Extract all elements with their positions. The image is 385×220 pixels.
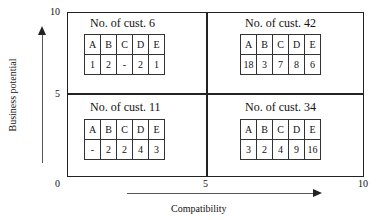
quadrant-tr-table: A B C D E 18 3 7 8 6 (240, 34, 321, 75)
table-header-row: A B C D E (85, 35, 165, 55)
x-axis-line (127, 193, 317, 194)
value-cell: 2 (257, 140, 273, 160)
value-cell: 18 (241, 55, 257, 75)
y-axis-label: Business potential (7, 58, 18, 131)
y-axis-line (42, 33, 43, 163)
table-value-row: 18 3 7 8 6 (241, 55, 321, 75)
y-tick-5: 5 (55, 89, 60, 99)
value-cell: 2 (101, 55, 117, 75)
x-tick-5: 5 (203, 179, 208, 189)
header-cell: C (273, 35, 289, 55)
quadrant-br-table: A B C D E 3 2 4 9 16 (240, 119, 321, 160)
horizontal-divider (67, 93, 364, 95)
value-cell: 6 (305, 55, 321, 75)
table-value-row: - 2 2 4 3 (85, 140, 165, 160)
value-cell: 1 (149, 55, 165, 75)
quadrant-tl-title: No. of cust. 6 (90, 16, 155, 31)
table-value-row: 3 2 4 9 16 (241, 140, 321, 160)
x-tick-10: 10 (358, 179, 368, 189)
header-cell: A (241, 35, 257, 55)
header-cell: B (101, 120, 117, 140)
header-cell: D (133, 35, 149, 55)
quadrant-bl-title: No. of cust. 11 (90, 100, 161, 115)
x-tick-0: 0 (55, 179, 60, 189)
table-value-row: 1 2 - 2 1 (85, 55, 165, 75)
quadrant-br-title: No. of cust. 34 (245, 100, 316, 115)
header-cell: A (241, 120, 257, 140)
quadrant-tr-title: No. of cust. 42 (245, 16, 316, 31)
header-cell: E (149, 35, 165, 55)
header-cell: A (85, 120, 101, 140)
value-cell: 7 (273, 55, 289, 75)
value-cell: 9 (289, 140, 305, 160)
header-cell: A (85, 35, 101, 55)
value-cell: - (117, 55, 133, 75)
header-cell: B (257, 120, 273, 140)
header-cell: B (257, 35, 273, 55)
value-cell: 8 (289, 55, 305, 75)
value-cell: 1 (85, 55, 101, 75)
x-axis-label: Compatibility (171, 203, 227, 214)
quadrant-bl-table: A B C D E - 2 2 4 3 (84, 119, 165, 160)
header-cell: E (305, 35, 321, 55)
y-axis-arrow-icon (38, 26, 46, 35)
header-cell: B (101, 35, 117, 55)
header-cell: C (117, 120, 133, 140)
table-header-row: A B C D E (241, 120, 321, 140)
value-cell: 4 (133, 140, 149, 160)
value-cell: 16 (305, 140, 321, 160)
value-cell: 3 (257, 55, 273, 75)
header-cell: E (305, 120, 321, 140)
value-cell: 3 (241, 140, 257, 160)
value-cell: 2 (117, 140, 133, 160)
header-cell: E (149, 120, 165, 140)
quadrant-tl-table: A B C D E 1 2 - 2 1 (84, 34, 165, 75)
x-axis-arrow-icon (313, 189, 322, 197)
header-cell: D (133, 120, 149, 140)
value-cell: - (85, 140, 101, 160)
header-cell: C (273, 120, 289, 140)
header-cell: C (117, 35, 133, 55)
vertical-divider (206, 12, 208, 177)
value-cell: 2 (133, 55, 149, 75)
table-header-row: A B C D E (241, 35, 321, 55)
header-cell: D (289, 120, 305, 140)
y-tick-10: 10 (50, 7, 60, 17)
value-cell: 2 (101, 140, 117, 160)
value-cell: 3 (149, 140, 165, 160)
table-header-row: A B C D E (85, 120, 165, 140)
value-cell: 4 (273, 140, 289, 160)
header-cell: D (289, 35, 305, 55)
